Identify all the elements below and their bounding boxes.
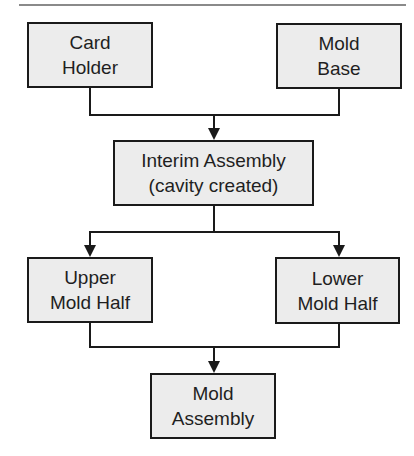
arrowhead-mold-assembly-icon [208, 361, 220, 373]
arrowhead-lower-icon [333, 245, 345, 257]
node-label-line2: Base [317, 56, 360, 81]
connector-upper-half [90, 322, 214, 347]
node-label-line1: Lower [312, 266, 364, 291]
node-upper-mold-half: Upper Mold Half [27, 257, 153, 323]
node-label-line1: Mold [318, 31, 359, 56]
node-interim-assembly: Interim Assembly (cavity created) [113, 140, 314, 206]
connector-branch-left [90, 232, 214, 247]
node-label-line2: Mold Half [297, 291, 377, 316]
node-label-line2: (cavity created) [149, 173, 279, 198]
node-mold-assembly: Mold Assembly [150, 373, 276, 439]
node-label-line1: Mold [192, 381, 233, 406]
arrowhead-upper-icon [84, 245, 96, 257]
node-label-line2: Mold Half [50, 290, 130, 315]
node-card-holder: Card Holder [27, 22, 153, 88]
arrowhead-interim-icon [208, 128, 220, 140]
node-mold-base: Mold Base [276, 23, 402, 89]
node-label-line2: Holder [62, 55, 118, 80]
node-label-line2: Assembly [172, 406, 254, 431]
connector-card-holder [90, 87, 214, 115]
node-label-line1: Interim Assembly [141, 148, 286, 173]
connector-mold-base [214, 88, 339, 115]
node-label-line1: Card [69, 30, 110, 55]
node-label-line1: Upper [64, 265, 116, 290]
connector-branch-right [214, 232, 339, 247]
node-lower-mold-half: Lower Mold Half [275, 257, 400, 324]
connector-lower-half [214, 323, 339, 347]
